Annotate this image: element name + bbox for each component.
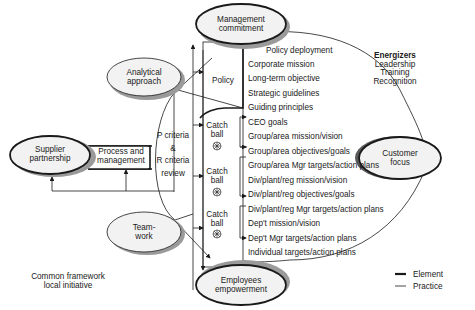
node-management-commitment: Management commitment	[201, 15, 281, 33]
catch-ball-1: Catch ball	[203, 121, 231, 139]
node-employees-empowerment: Employees empowerment	[201, 276, 281, 294]
policy-deployment-heading: Policy deployment	[266, 46, 332, 55]
list-item: Guiding principles	[248, 103, 313, 112]
energizers-block: Energizers Leadership Training Recogniti…	[360, 52, 430, 86]
list-item: Dep't Mgr targets/action plans	[248, 234, 357, 243]
list-item: Dep't mission/vision	[248, 219, 320, 228]
node-process-management: Process and management	[92, 147, 150, 165]
list-item: Long-term objective	[248, 74, 320, 83]
list-item: Individual targets/action plans	[248, 248, 356, 257]
list-item: Group/area mission/vision	[248, 132, 343, 141]
node-teamwork: Team- work	[117, 223, 171, 241]
list-item: Strategic guidelines	[248, 89, 319, 98]
list-item: CEO goals	[248, 118, 288, 127]
review-criteria: P criteria & R criteria review	[150, 130, 196, 180]
catch-ball-icon-3	[213, 230, 221, 238]
node-analytical-approach: Analytical approach	[107, 68, 181, 86]
list-item: Div/plant/reg objectives/goals	[248, 190, 355, 199]
list-item: Div/plant/reg mission/vision	[248, 176, 347, 185]
list-item: Div/plant/reg Mgr targets/action plans	[248, 205, 384, 214]
catch-ball-2: Catch ball	[203, 167, 231, 185]
list-item: Group/area objectives/goals	[248, 147, 350, 156]
legend-practice-label: Practice	[413, 282, 443, 291]
list-item: Group/area Mgr targets/action plans	[248, 161, 379, 170]
catch-ball-3: Catch ball	[203, 210, 231, 228]
catch-ball-icon-1	[213, 142, 221, 150]
list-item: Corporate mission	[248, 60, 314, 69]
policy-label: Policy	[205, 76, 241, 85]
common-framework-note: Common framework local initiative	[26, 272, 110, 290]
catch-ball-icon-2	[213, 188, 221, 196]
legend-element-label: Element	[413, 270, 443, 279]
node-supplier-partnership: Supplier partnership	[12, 145, 88, 163]
